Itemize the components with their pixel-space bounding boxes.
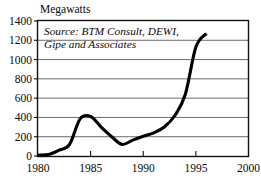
chart-title-group: Megawatts (40, 3, 91, 16)
y-axis-ticks: 0200400600800100012001400 (9, 15, 38, 162)
x-tick-label: 1980 (27, 162, 50, 174)
x-tick-label: 1990 (132, 162, 155, 174)
y-tick-label: 1400 (9, 15, 32, 27)
y-tick-label: 600 (15, 92, 33, 104)
x-tick-label: 1985 (79, 162, 102, 174)
x-tick-label: 1995 (184, 162, 207, 174)
source-line-2: Gipe and Associates (44, 38, 137, 50)
y-tick-label: 400 (15, 111, 33, 123)
chart-title: Megawatts (40, 3, 91, 16)
x-axis-ticks: 19801985199019952000 (27, 151, 261, 174)
y-tick-label: 200 (15, 131, 33, 143)
source-line-1: Source: BTM Consult, DEWI, (44, 25, 179, 37)
y-tick-label: 1200 (9, 34, 32, 46)
wind-capacity-chart: Megawatts 0200400600800100012001400 1980… (0, 0, 261, 183)
chart-canvas: Megawatts 0200400600800100012001400 1980… (0, 0, 261, 183)
y-tick-label: 0 (26, 150, 32, 162)
gridlines (38, 40, 249, 136)
y-tick-label: 800 (15, 73, 33, 85)
source-annotation: Source: BTM Consult, DEWI, Gipe and Asso… (44, 25, 179, 50)
y-tick-label: 1000 (9, 54, 32, 66)
x-tick-label: 2000 (237, 162, 260, 174)
